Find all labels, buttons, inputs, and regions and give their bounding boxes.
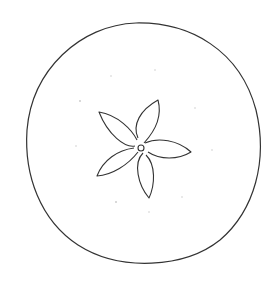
apple-slice-drawing — [0, 0, 279, 281]
seed-petal — [138, 153, 154, 198]
apple-outline — [27, 23, 261, 263]
core-star — [97, 100, 191, 198]
seed-petal — [97, 148, 138, 176]
core-center — [138, 145, 144, 151]
seed-petal — [99, 112, 137, 146]
seed-petal — [136, 100, 159, 143]
seed-petal — [145, 140, 191, 158]
